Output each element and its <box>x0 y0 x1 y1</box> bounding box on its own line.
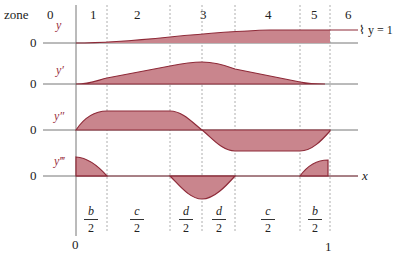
interval-b-half-1: b2 <box>82 205 100 234</box>
curve-y-double-prime-positive <box>76 111 202 130</box>
zone-0: 0 <box>47 8 54 21</box>
zone-label: zone <box>4 8 29 21</box>
interval-b-half-2: b2 <box>306 205 324 234</box>
curve-y-double-prime-negative <box>202 130 330 151</box>
x-axis-label: x <box>362 169 368 182</box>
x-end-label: 1 <box>325 240 332 253</box>
row-label-y-triple-prime: y‴ <box>54 155 64 167</box>
row-label-y-prime: y′ <box>56 64 64 76</box>
curve-y-triple-prime-start <box>76 157 107 176</box>
zone-5: 5 <box>311 8 318 21</box>
x-start-label: 0 <box>72 238 79 251</box>
row-label-y: y <box>56 19 61 31</box>
curve-y-prime <box>76 62 325 84</box>
zero-label-y-prime: 0 <box>30 77 37 90</box>
zero-label-y-double-prime: 0 <box>30 123 37 136</box>
interval-c-half-2: c2 <box>259 205 277 234</box>
curve-y-triple-prime-end <box>300 160 328 176</box>
interval-d-half-1: d2 <box>177 205 195 234</box>
zone-6: 6 <box>345 8 352 21</box>
zone-3: 3 <box>200 8 207 21</box>
curve-y-triple-prime-middle <box>170 176 235 199</box>
y-equals-one-label: ⌇ y = 1 <box>359 24 393 36</box>
zero-label-y-triple-prime: 0 <box>30 169 37 182</box>
zero-label-y: 0 <box>30 36 37 49</box>
zone-2: 2 <box>134 8 141 21</box>
interval-d-half-2: d2 <box>210 205 228 234</box>
zone-4: 4 <box>265 8 272 21</box>
interval-c-half-1: c2 <box>128 205 146 234</box>
row-label-y-double-prime: y″ <box>54 110 64 122</box>
zone-1: 1 <box>90 8 97 21</box>
